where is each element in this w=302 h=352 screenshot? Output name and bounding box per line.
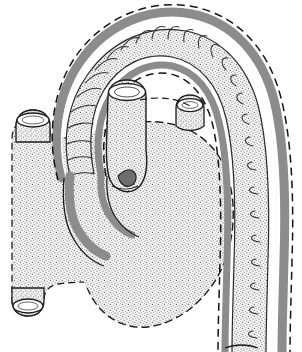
left-upper-stump bbox=[16, 110, 50, 142]
right-upper-stump bbox=[176, 95, 204, 131]
right-upper-stump-opening bbox=[177, 99, 203, 112]
heart-aorta-drawing bbox=[0, 0, 302, 352]
left-lower-stump-opening bbox=[13, 299, 43, 313]
left-lower-stump bbox=[12, 288, 44, 316]
anatomical-figure: Anatomical line drawing of heart with ao… bbox=[0, 0, 302, 352]
pulmonary-trunk bbox=[106, 80, 146, 192]
